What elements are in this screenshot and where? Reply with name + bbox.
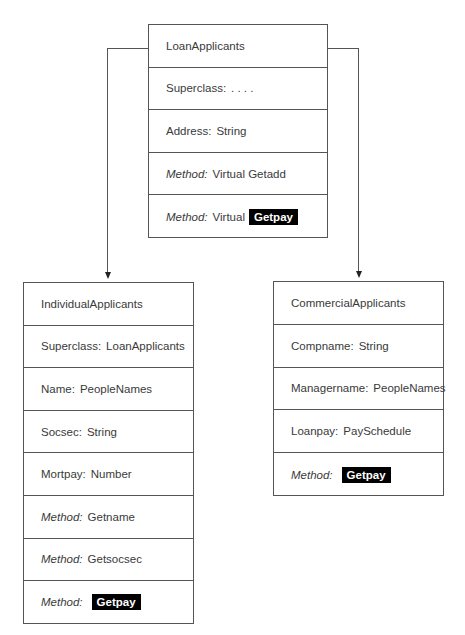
- class-attribute: Superclass:. . . .: [149, 68, 327, 111]
- connector-right-horizontal: [328, 48, 359, 49]
- method-keyword: Method:: [41, 511, 83, 523]
- attribute-value: Number: [91, 468, 132, 480]
- class-attribute: Socsec:String: [24, 411, 193, 454]
- class-name: LoanApplicants: [166, 40, 245, 52]
- class-attribute: Name:PeopleNames: [24, 368, 193, 411]
- class-box-individualapplicants: IndividualApplicants Superclass:LoanAppl…: [23, 282, 194, 624]
- attribute-value: PeopleNames: [80, 383, 152, 395]
- class-attribute: Superclass:LoanApplicants: [24, 326, 193, 369]
- connector-left-horizontal: [107, 48, 148, 49]
- method-keyword: Method:: [166, 168, 208, 180]
- class-method: Method:Getpay: [274, 453, 443, 496]
- method-value: Virtual Getadd: [213, 168, 286, 180]
- method-keyword: Method:: [41, 553, 83, 565]
- class-method: Method:Getsocsec: [24, 539, 193, 582]
- attribute-value: String: [359, 340, 389, 352]
- method-highlight: Getpay: [342, 467, 391, 483]
- arrowhead-down-icon: [356, 271, 362, 278]
- attribute-value: LoanApplicants: [106, 340, 185, 352]
- attribute-label: Managername:: [291, 382, 368, 394]
- class-attribute: Managername:PeopleNames: [274, 368, 443, 411]
- attribute-label: Socsec:: [41, 426, 82, 438]
- attribute-value: String: [87, 426, 117, 438]
- class-title: IndividualApplicants: [24, 283, 193, 326]
- class-attribute: Loanpay:PaySchedule: [274, 410, 443, 453]
- attribute-label: Superclass:: [166, 82, 226, 94]
- class-attribute: Mortpay:Number: [24, 453, 193, 496]
- attribute-label: Address:: [166, 125, 211, 137]
- class-name: IndividualApplicants: [41, 298, 143, 310]
- method-value: Virtual: [213, 211, 245, 223]
- class-method: Method:VirtualGetpay: [149, 195, 327, 238]
- attribute-label: Superclass:: [41, 340, 101, 352]
- connector-left-vertical: [107, 48, 108, 273]
- attribute-value: String: [216, 125, 246, 137]
- method-highlight: Getpay: [249, 209, 298, 225]
- class-method: Method:Getname: [24, 496, 193, 539]
- attribute-value: PaySchedule: [343, 425, 411, 437]
- class-name: CommercialApplicants: [291, 297, 405, 309]
- class-method: Method:Getpay: [24, 581, 193, 624]
- method-keyword: Method:: [41, 596, 83, 608]
- class-attribute: Address:String: [149, 110, 327, 153]
- class-title: CommercialApplicants: [274, 282, 443, 325]
- attribute-label: Loanpay:: [291, 425, 338, 437]
- method-value: Getname: [88, 511, 135, 523]
- attribute-label: Name:: [41, 383, 75, 395]
- method-value: Getsocsec: [88, 553, 142, 565]
- class-method: Method:Virtual Getadd: [149, 153, 327, 196]
- attribute-label: Compname:: [291, 340, 354, 352]
- class-box-loanapplicants: LoanApplicants Superclass:. . . . Addres…: [148, 24, 328, 238]
- method-keyword: Method:: [166, 211, 208, 223]
- attribute-label: Mortpay:: [41, 468, 86, 480]
- method-keyword: Method:: [291, 469, 333, 481]
- arrowhead-down-icon: [105, 272, 111, 279]
- attribute-value: . . . .: [231, 82, 253, 94]
- class-attribute: Compname:String: [274, 325, 443, 368]
- attribute-value: PeopleNames: [373, 382, 445, 394]
- connector-right-vertical: [358, 48, 359, 272]
- class-title: LoanApplicants: [149, 25, 327, 68]
- method-highlight: Getpay: [92, 594, 141, 610]
- class-box-commercialapplicants: CommercialApplicants Compname:String Man…: [273, 281, 444, 496]
